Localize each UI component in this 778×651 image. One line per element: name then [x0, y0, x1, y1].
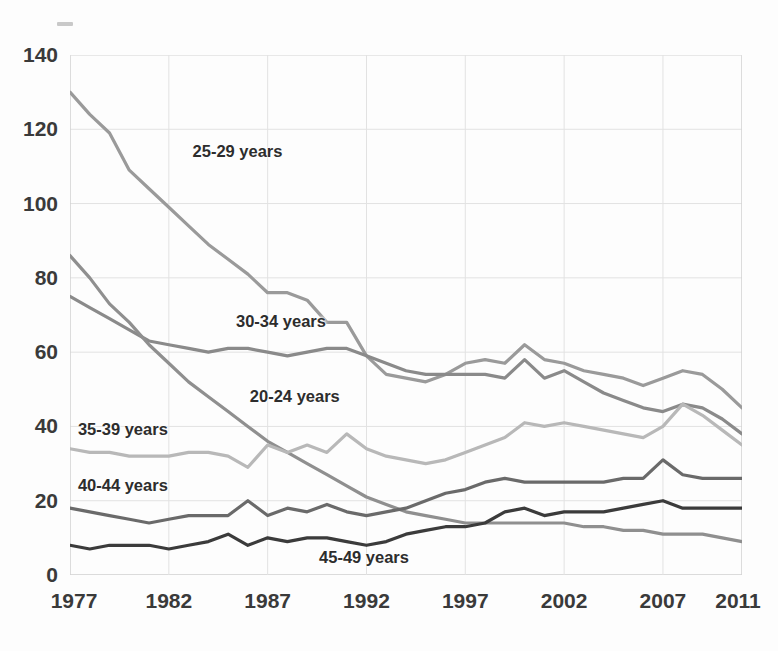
series-annotation: 40-44 years: [78, 476, 168, 495]
y-tick-label: 80: [35, 266, 58, 290]
x-tick-label: 1987: [244, 589, 291, 613]
y-tick-label: 100: [23, 192, 58, 216]
gridlines: [70, 55, 742, 575]
y-tick-label: 60: [35, 340, 58, 364]
series-annotation: 20-24 years: [250, 387, 340, 406]
x-tick-label: 2007: [640, 589, 687, 613]
y-tick-label: 20: [35, 489, 58, 513]
x-tick-label: 1977: [51, 589, 98, 613]
line-chart-svg: [70, 55, 742, 575]
y-axis-labels: 020406080100120140: [0, 0, 68, 651]
x-tick-label: 1982: [145, 589, 192, 613]
series-line-40-44-years: [70, 460, 742, 523]
y-tick-label: 40: [35, 414, 58, 438]
series-annotation: 25-29 years: [193, 142, 283, 161]
x-tick-label: 2011: [715, 589, 761, 613]
series-line-20-24-years: [70, 256, 742, 542]
data-series-group: [70, 92, 742, 549]
series-line-35-39-years: [70, 404, 742, 467]
y-tick-label: 120: [23, 117, 58, 141]
y-tick-label: 140: [23, 43, 58, 67]
series-line-25-29-years: [70, 92, 742, 408]
y-tick-label: 0: [46, 563, 58, 587]
axis-lines: [70, 55, 742, 575]
chart-root: 020406080100120140 197719821987199219972…: [0, 0, 778, 651]
clipped-title-remnant: [330, 0, 370, 8]
series-annotation: 30-34 years: [236, 312, 326, 331]
plot-area: [70, 55, 742, 575]
series-annotation: 35-39 years: [78, 420, 168, 439]
x-tick-label: 1992: [343, 589, 390, 613]
x-tick-label: 1997: [442, 589, 489, 613]
x-tick-label: 2002: [541, 589, 588, 613]
x-axis-labels: 19771982198719921997200220072011: [0, 589, 778, 629]
series-annotation: 45-49 years: [319, 548, 409, 567]
